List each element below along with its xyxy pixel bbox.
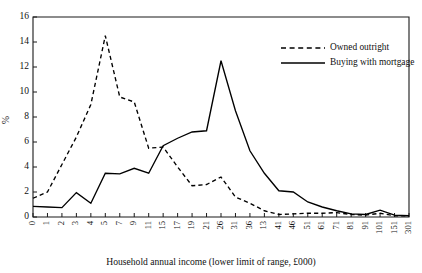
y-tick-label: 14 — [20, 36, 30, 46]
x-tick-label: 71 — [331, 221, 341, 230]
x-tick-label: 7 — [114, 220, 124, 225]
y-tick-label: 12 — [20, 61, 30, 71]
x-tick-label: 91 — [360, 221, 370, 230]
x-tick-label: 51 — [302, 221, 312, 230]
x-tick-label: 151 — [389, 221, 399, 234]
x-axis: 0123457911151719212631361341465161718191… — [27, 213, 413, 234]
y-tick-label: 4 — [24, 161, 29, 171]
chart-figure: 0246810121416 01234579111517192126313613… — [0, 0, 422, 273]
y-tick-label: 0 — [24, 211, 29, 221]
series-line-2 — [33, 61, 409, 216]
x-tick-label: 1 — [41, 221, 51, 225]
x-tick-label: 0 — [27, 221, 37, 225]
x-tick-label: 26 — [215, 220, 225, 229]
x-tick-label: 101 — [374, 221, 384, 234]
legend-label-2: Buying with mortgage — [330, 57, 414, 67]
y-tick-label: 2 — [24, 186, 29, 196]
x-tick-label: 81 — [345, 221, 355, 230]
y-tick-label: 8 — [24, 111, 29, 121]
x-tick-label: 46 — [287, 220, 297, 229]
y-tick-label: 10 — [20, 86, 30, 96]
x-tick-label: 9 — [128, 221, 138, 225]
chart-legend: Owned outrightBuying with mortgage — [281, 42, 414, 67]
x-tick-label: 3 — [70, 221, 80, 225]
x-tick-label: 19 — [186, 221, 196, 230]
x-tick-label: 21 — [201, 221, 211, 230]
x-tick-label: 17 — [172, 220, 182, 229]
x-tick-label: 2 — [56, 221, 66, 225]
line-chart: 0246810121416 01234579111517192126313613… — [0, 0, 422, 273]
legend-label-1: Owned outright — [330, 42, 390, 52]
y-axis: 0246810121416 — [20, 11, 38, 221]
x-tick-label: 15 — [157, 221, 167, 230]
x-tick-label: 61 — [316, 221, 326, 230]
y-tick-label: 16 — [20, 11, 30, 21]
x-tick-label: 4 — [85, 220, 95, 225]
x-tick-label: 41 — [273, 221, 283, 230]
y-axis-title: % — [0, 116, 11, 124]
y-tick-label: 6 — [24, 136, 29, 146]
x-tick-label: 13 — [258, 221, 268, 230]
x-tick-label: 31 — [229, 221, 239, 230]
x-axis-title: Household annual income (lower limit of … — [106, 256, 315, 268]
x-tick-label: 301 — [403, 221, 413, 234]
x-tick-label: 5 — [99, 221, 109, 225]
x-tick-label: 11 — [143, 221, 153, 229]
x-tick-label: 36 — [244, 220, 254, 229]
